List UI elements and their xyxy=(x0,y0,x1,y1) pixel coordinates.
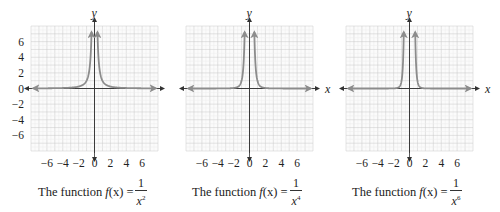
fraction-denominator: x6 xyxy=(449,191,463,208)
x-tick-label: 0 xyxy=(407,157,413,169)
x-axis-label: x xyxy=(484,82,491,96)
x-tick-label: 2 xyxy=(423,157,429,169)
chart-3-caption: The function f(x) = 1 x6 xyxy=(0,176,500,210)
caption-arg: (x) xyxy=(423,185,438,199)
x-tick-label: −2 xyxy=(388,157,400,169)
fraction-numerator: 1 xyxy=(449,176,463,190)
chart-panel-3: xy−6−4−20246 The function f(x) = 1 x6 xyxy=(0,0,166,212)
caption-lead: The function xyxy=(352,185,419,199)
chart-3-plot: xy−6−4−20246 xyxy=(0,0,500,176)
x-tick-label: 4 xyxy=(438,157,444,169)
x-tick-label: −4 xyxy=(372,157,384,169)
y-axis-label: y xyxy=(406,6,413,20)
caption-fraction: 1 x6 xyxy=(449,176,463,208)
exponent: 6 xyxy=(457,194,461,202)
x-tick-label: −6 xyxy=(356,157,368,169)
caption-equals: = xyxy=(437,185,447,199)
x-tick-label: 6 xyxy=(454,157,460,169)
